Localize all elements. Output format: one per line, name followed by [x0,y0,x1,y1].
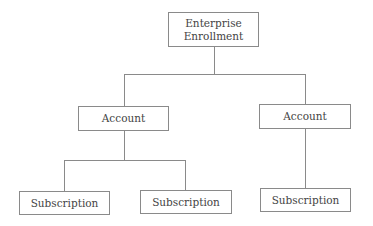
enterprise-enrollment-label-line2: Enrollment [184,30,244,43]
account-label: Account [283,110,326,123]
account-node-right: Account [259,104,351,129]
subscription-node-1: Subscription [19,191,110,215]
enterprise-enrollment-node: Enterprise Enrollment [168,12,259,47]
account-node-left: Account [78,106,169,131]
connector-account-left-horizontal [64,160,186,161]
connector-to-subscription-2 [185,160,186,190]
connector-root-down [214,47,215,75]
connector-root-horizontal [124,74,306,75]
connector-account-left-down [124,131,125,161]
connector-to-subscription-1 [64,160,65,191]
account-label: Account [102,112,145,125]
subscription-node-2: Subscription [140,190,232,214]
subscription-label: Subscription [152,196,220,209]
subscription-label: Subscription [272,194,340,207]
enterprise-enrollment-label-line1: Enterprise [185,17,242,30]
connector-account-right-down [305,129,306,188]
connector-to-account-left [124,74,125,106]
subscription-label: Subscription [31,197,99,210]
subscription-node-3: Subscription [260,188,351,212]
connector-to-account-right [305,74,306,104]
